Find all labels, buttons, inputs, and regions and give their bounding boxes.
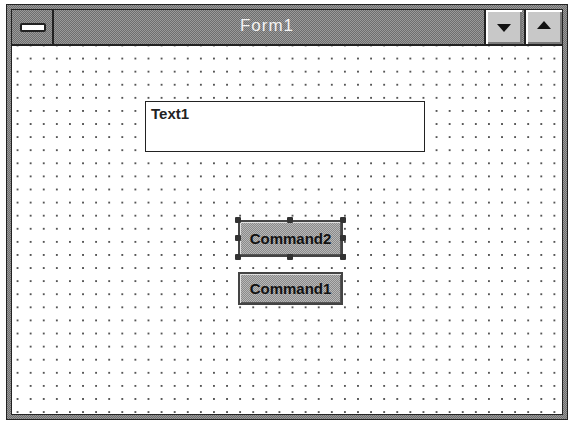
triangle-down-icon [497,24,511,32]
form-design-surface[interactable]: Text1 Command2 Command1 [12,46,562,414]
resize-handle-tl[interactable] [235,217,241,223]
resize-handle-bl[interactable] [235,254,241,260]
window-title: Form1 [54,10,480,44]
resize-handle-ml[interactable] [235,235,241,241]
title-bar[interactable]: Form1 [12,10,562,46]
system-menu-bar-icon [20,23,46,32]
triangle-up-icon [537,21,551,29]
form-window: Form1 Text1 Command2 Command1 [6,4,568,420]
resize-handle-bm[interactable] [287,254,293,260]
resize-handle-tr[interactable] [340,217,346,223]
command1-button[interactable]: Command1 [238,272,343,305]
resize-handle-br[interactable] [340,254,346,260]
resize-handle-tm[interactable] [287,217,293,223]
minimize-button[interactable] [484,10,522,44]
window-inner: Form1 Text1 Command2 Command1 [11,9,563,415]
maximize-button[interactable] [524,10,562,44]
text1-textbox[interactable]: Text1 [145,101,425,152]
command2-button[interactable]: Command2 [238,220,343,257]
resize-handle-mr[interactable] [340,235,346,241]
system-menu-button[interactable] [12,10,54,44]
